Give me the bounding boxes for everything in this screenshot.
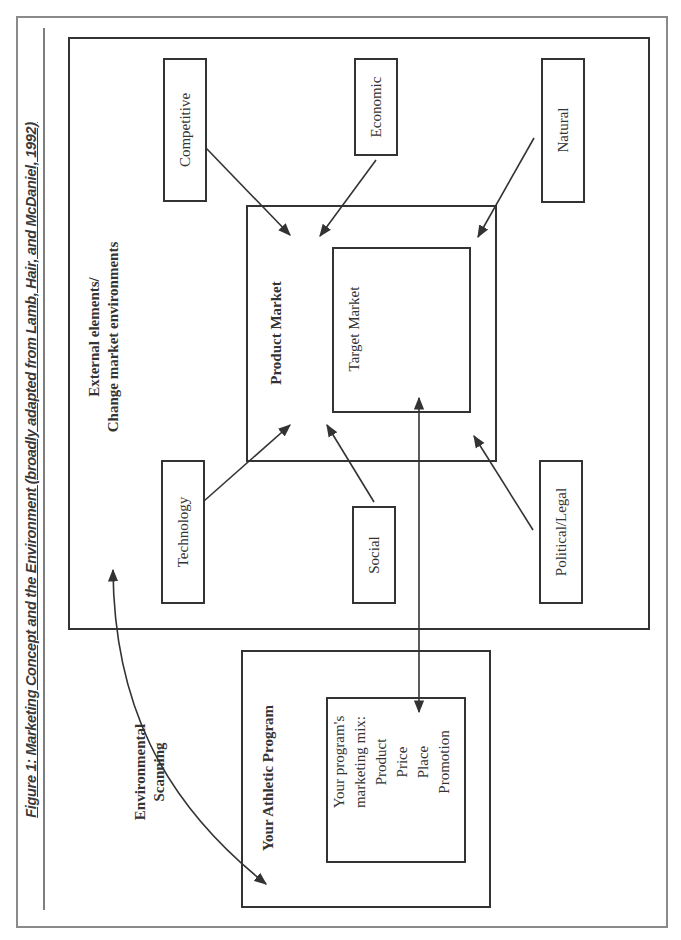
connector-layer bbox=[0, 0, 681, 940]
arrow-social bbox=[327, 425, 374, 502]
arrow-political-legal bbox=[474, 436, 533, 530]
arrow-technology bbox=[204, 425, 290, 501]
arrow-competitive bbox=[206, 148, 290, 235]
arrow-environmental-scanning bbox=[113, 570, 266, 884]
arrow-natural bbox=[478, 138, 534, 237]
arrow-economic bbox=[320, 160, 376, 236]
figure-canvas: Figure 1: Marketing Concept and the Envi… bbox=[0, 0, 681, 940]
